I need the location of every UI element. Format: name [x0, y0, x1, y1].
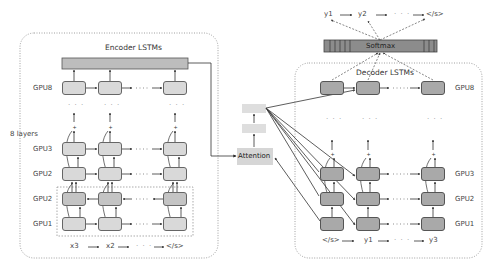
encoder-lstm-cell — [62, 81, 86, 95]
attention-context-box-2 — [242, 104, 266, 113]
encoder-title: Encoder LSTMs — [105, 44, 162, 52]
encoder-lstm-cell — [62, 167, 86, 181]
decoder-lstm-cell — [320, 217, 344, 231]
output-ellipsis: · · · — [394, 11, 410, 18]
encoder-lstm-cell — [98, 81, 122, 95]
encoder-lstm-cell — [62, 217, 86, 231]
svg-text:+: + — [331, 151, 335, 157]
decoder-input-ellipsis: · · · — [394, 237, 410, 244]
decoder-lstm-cell — [421, 167, 445, 181]
output-y2: y2 — [358, 11, 367, 18]
encoder-row-label-gpu8: GPU8 — [33, 85, 52, 92]
encoder-lstm-cell — [163, 167, 187, 181]
encoder-layers-label: 8 layers — [10, 131, 38, 138]
svg-text:+: + — [109, 124, 113, 130]
encoder-lstm-cell — [163, 192, 187, 206]
encoder-lstm-cell — [163, 142, 187, 156]
decoder-layer-ellipsis-3: · · · — [427, 116, 443, 123]
gnmt-architecture-diagram: + + + — [0, 0, 491, 272]
encoder-lstm-cell — [98, 192, 122, 206]
encoder-to-attention-line — [188, 63, 236, 156]
svg-text:+: + — [174, 124, 178, 130]
decoder-title: Decoder LSTMs — [356, 69, 414, 77]
encoder-lstm-cell — [163, 217, 187, 231]
encoder-lstm-cell — [163, 81, 187, 95]
encoder-lstm-cell — [98, 142, 122, 156]
decoder-lstm-cell — [421, 81, 445, 95]
decoder-row-label-gpu8: GPU8 — [455, 85, 474, 92]
encoder-layer-ellipsis-2: · · · — [104, 102, 120, 109]
encoder-input-eos: </s> — [166, 243, 184, 250]
svg-text:+: + — [367, 151, 371, 157]
encoder-input-x2: x2 — [106, 243, 115, 250]
output-y1: y1 — [324, 11, 333, 18]
decoder-lstm-cell — [320, 81, 344, 95]
attention-context-box-1 — [242, 124, 266, 133]
encoder-row-label-gpu1: GPU1 — [33, 221, 52, 228]
svg-text:+: + — [73, 124, 77, 130]
decoder-lstm-cell — [421, 192, 445, 206]
encoder-output-bar — [62, 58, 188, 69]
decoder-row-label-gpu3: GPU3 — [455, 171, 474, 178]
decoder-lstm-cell — [320, 192, 344, 206]
encoder-lstm-cell — [98, 217, 122, 231]
decoder-layer-ellipsis-2: · · · — [362, 116, 378, 123]
decoder-lstm-cell — [356, 167, 380, 181]
encoder-row-label-gpu3: GPU3 — [33, 146, 52, 153]
svg-text:+: + — [432, 151, 436, 157]
encoder-input-ellipsis: · · · — [136, 243, 152, 250]
decoder-lstm-cell — [356, 81, 380, 95]
decoder-lstm-cell — [356, 217, 380, 231]
encoder-lstm-cell — [62, 142, 86, 156]
decoder-input-y3: y3 — [429, 237, 438, 244]
decoder-lstm-cell — [421, 217, 445, 231]
decoder-row-label-gpu1: GPU1 — [455, 221, 474, 228]
encoder-layer-ellipsis-3: · · · — [169, 102, 185, 109]
encoder-row-label-gpu2: GPU2 — [33, 171, 52, 178]
decoder-input-eos: </s> — [322, 237, 340, 244]
encoder-lstm-cell — [62, 192, 86, 206]
decoder-layer-ellipsis-1: · · · — [326, 116, 342, 123]
decoder-lstm-cell — [320, 167, 344, 181]
encoder-input-x3: x3 — [70, 243, 79, 250]
output-eos: </s> — [426, 11, 444, 18]
decoder-input-y1: y1 — [364, 237, 373, 244]
encoder-row-label-gpu2-bidir: GPU2 — [33, 196, 52, 203]
decoder-lstm-cell — [356, 192, 380, 206]
attention-label: Attention — [238, 153, 270, 160]
decoder-row-label-gpu2: GPU2 — [455, 196, 474, 203]
encoder-lstm-cell — [98, 167, 122, 181]
softmax-label: Softmax — [366, 43, 395, 50]
encoder-layer-ellipsis-1: · · · — [68, 102, 84, 109]
